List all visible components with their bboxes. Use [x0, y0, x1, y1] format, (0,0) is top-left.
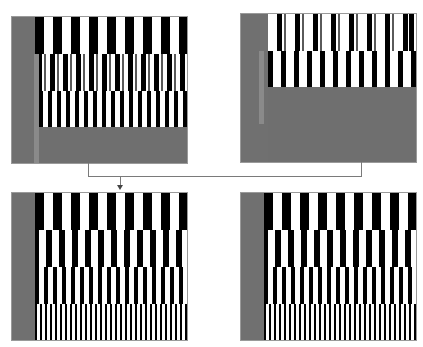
stripe-row-2 — [268, 51, 417, 87]
stripe-row-3 — [264, 267, 417, 304]
panel-top-right — [240, 13, 417, 163]
stripe-row-1 — [268, 14, 417, 51]
stripe-row-2 — [39, 54, 188, 91]
stripe-row-2 — [35, 230, 188, 267]
stripe-row-2 — [264, 230, 417, 267]
connector-left-drop — [88, 163, 89, 177]
stripe-row-3 — [39, 91, 188, 127]
stripe-row-1 — [35, 193, 188, 230]
accent-strip — [259, 51, 264, 124]
arrow-down-icon — [117, 185, 123, 190]
stripe-row-1 — [264, 193, 417, 230]
panel-bottom-left — [11, 192, 188, 341]
panel-top-left — [11, 16, 188, 164]
side-gray-column — [241, 193, 264, 340]
connector-horizontal — [88, 176, 362, 177]
side-gray-column — [12, 193, 35, 340]
connector-right-drop — [361, 162, 362, 177]
side-gray-column — [12, 17, 35, 163]
panel-bottom-right — [240, 192, 417, 341]
stripe-row-4 — [264, 304, 417, 341]
stripe-row-3 — [35, 267, 188, 304]
stripe-row-4 — [35, 304, 188, 341]
stripe-row-1 — [35, 17, 188, 54]
